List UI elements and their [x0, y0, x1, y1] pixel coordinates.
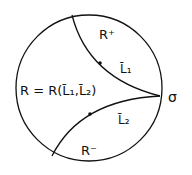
arrow-marker-l2: [88, 112, 92, 116]
region-lower-label: R⁻: [81, 143, 97, 158]
point-sigma-label: σ: [168, 89, 177, 105]
diagram-canvas: R = R(L̄₁,L̄₂) R⁺ R⁻ L̄₁ L̄₂ σ: [0, 0, 192, 175]
curve-lower-label: L̄₂: [118, 113, 130, 127]
curve-upper-label: L̄₁: [120, 62, 132, 76]
curve-l2: [52, 96, 160, 156]
arrow-marker-l1: [98, 61, 102, 65]
region-upper-label: R⁺: [99, 27, 115, 42]
region-main-label: R = R(L̄₁,L̄₂): [20, 83, 96, 98]
